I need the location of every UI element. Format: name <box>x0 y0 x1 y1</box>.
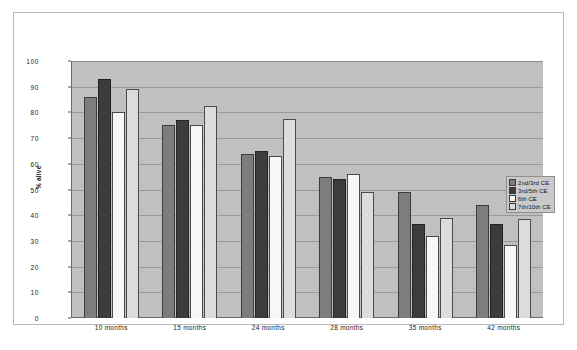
bar[interactable] <box>398 192 411 318</box>
legend-item[interactable]: 2nd/3rd CE <box>509 179 551 186</box>
legend-swatch-icon <box>509 187 516 194</box>
legend-label: 2nd/3rd CE <box>518 180 549 186</box>
bar[interactable] <box>204 106 217 318</box>
bar[interactable] <box>84 97 97 318</box>
y-axis-tick-label: 30 <box>5 237 39 244</box>
legend-swatch-icon <box>509 195 516 202</box>
legend-item[interactable]: 6th CE <box>509 195 551 202</box>
x-axis-tick-label: 10 months <box>72 324 151 331</box>
bar-group <box>72 61 151 318</box>
chart-legend: 2nd/3rd CE3rd/5th CE6th CE7th/10th CE <box>506 176 555 213</box>
x-axis-tick-label: 24 months <box>229 324 308 331</box>
figure-frame: % alive 1009080706050403020100 10 months… <box>13 12 564 325</box>
y-axis-tick-mark <box>68 292 71 293</box>
bar[interactable] <box>190 125 203 318</box>
bar[interactable] <box>518 219 531 318</box>
bar[interactable] <box>269 156 282 318</box>
legend-label: 6th CE <box>518 196 537 202</box>
legend-label: 3rd/5th CE <box>518 188 548 194</box>
bar-group <box>308 61 387 318</box>
y-axis-tick-mark <box>68 189 71 190</box>
x-axis-labels: 10 months15 months24 months28 months35 m… <box>72 324 543 331</box>
x-axis-tick-label: 28 months <box>308 324 387 331</box>
bar[interactable] <box>241 154 254 318</box>
bar[interactable] <box>440 218 453 318</box>
bar[interactable] <box>333 179 346 318</box>
bar-group <box>151 61 230 318</box>
y-axis-tick-label: 60 <box>5 160 39 167</box>
bar-group <box>386 61 465 318</box>
y-axis-tick-mark <box>68 318 71 319</box>
y-axis-tick-label: 90 <box>5 83 39 90</box>
legend-swatch-icon <box>509 203 516 210</box>
y-axis-tick-mark <box>68 163 71 164</box>
x-axis-tick-label: 15 months <box>151 324 230 331</box>
bar[interactable] <box>162 125 175 318</box>
y-axis-tick-label: 10 <box>5 289 39 296</box>
y-axis-tick-mark <box>68 61 71 62</box>
legend-label: 7th/10th CE <box>518 204 551 210</box>
bar[interactable] <box>347 174 360 318</box>
bar[interactable] <box>126 89 139 318</box>
y-axis-tick-mark <box>68 112 71 113</box>
y-axis-tick-label: 0 <box>5 315 39 322</box>
bar[interactable] <box>412 224 425 318</box>
bar[interactable] <box>255 151 268 318</box>
bar[interactable] <box>504 245 517 318</box>
y-axis-tick-mark <box>68 240 71 241</box>
bar[interactable] <box>361 192 374 318</box>
y-axis-tick-label: 40 <box>5 212 39 219</box>
bar[interactable] <box>283 119 296 318</box>
y-axis-tick-label: 50 <box>5 186 39 193</box>
y-axis-tick-mark <box>68 215 71 216</box>
bar-groups <box>72 61 543 318</box>
y-axis-tick-mark <box>68 86 71 87</box>
x-axis-tick-label: 42 months <box>465 324 544 331</box>
y-axis-tick-label: 20 <box>5 263 39 270</box>
bar[interactable] <box>98 79 111 318</box>
legend-item[interactable]: 3rd/5th CE <box>509 187 551 194</box>
bar[interactable] <box>319 177 332 318</box>
bar[interactable] <box>490 224 503 318</box>
y-axis-tick-mark <box>68 138 71 139</box>
y-axis-tick-label: 70 <box>5 135 39 142</box>
bar[interactable] <box>112 112 125 318</box>
legend-item[interactable]: 7th/10th CE <box>509 203 551 210</box>
legend-swatch-icon <box>509 179 516 186</box>
y-axis-tick-mark <box>68 266 71 267</box>
bar[interactable] <box>476 205 489 318</box>
bar-group <box>229 61 308 318</box>
bar[interactable] <box>426 236 439 318</box>
y-axis-tick-label: 80 <box>5 109 39 116</box>
y-axis-tick-label: 100 <box>5 58 39 65</box>
bar[interactable] <box>176 120 189 318</box>
x-axis-tick-label: 35 months <box>386 324 465 331</box>
